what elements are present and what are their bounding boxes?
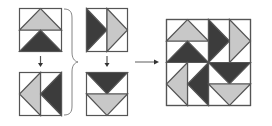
unit-up-block [20, 9, 62, 52]
curly-brace-icon [64, 9, 78, 115]
unit-right-block [87, 9, 128, 52]
arrow-down-icon [105, 56, 110, 67]
unit-down-block [87, 73, 128, 116]
arrow-right-icon [135, 60, 159, 65]
arrow-down-icon [38, 56, 43, 67]
unit-left-block [20, 73, 62, 116]
quilt-diagram [0, 0, 272, 126]
assembled-block [167, 20, 251, 106]
